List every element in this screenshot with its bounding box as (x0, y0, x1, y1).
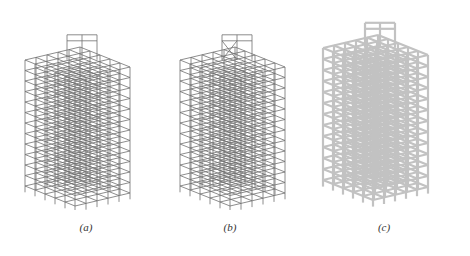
panel-b-wireframe-model (155, 0, 311, 210)
panel-c-label: (c) (364, 221, 404, 233)
panel-a-wireframe-model (0, 0, 156, 210)
frame-model-b-graphic (155, 0, 311, 210)
panel-c-solid-model (305, 0, 461, 210)
panel-a-label: (a) (66, 221, 106, 233)
panel-b-label: (b) (210, 221, 250, 233)
frame-model-a-graphic (0, 0, 156, 210)
frame-model-c-graphic (305, 0, 470, 210)
